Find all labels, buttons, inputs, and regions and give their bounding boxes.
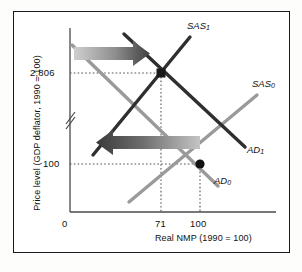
y-tick-100: 100 [43, 158, 59, 169]
curve-label-ad0: AD0 [214, 175, 231, 186]
curve-label-sas1-sub: 1 [206, 24, 210, 31]
curve-label-ad1-base: AD [247, 144, 260, 155]
x-tick-100: 100 [190, 218, 206, 229]
curve-label-sas1: SAS1 [187, 20, 210, 31]
chart-canvas [0, 0, 302, 272]
curve-label-ad0-sub: 0 [227, 179, 231, 186]
figure-container: Price level (GDP deflator, 1990 = 100) 2… [0, 0, 302, 272]
x-axis-title: Real NMP (1990 = 100) [155, 233, 252, 243]
curve-label-sas0-sub: 0 [271, 82, 275, 89]
curve-label-ad1: AD1 [247, 144, 264, 155]
y-tick-2806: 2,806 [30, 67, 55, 78]
ad-shift-arrow [74, 41, 150, 66]
curve-label-ad0-base: AD [214, 175, 227, 186]
equilibrium-marker-initial [195, 159, 204, 168]
curve-label-sas1-base: SAS [187, 20, 206, 31]
y-axis-title-wrap: Price level (GDP deflator, 1990 = 100) [14, 20, 36, 210]
curve-label-ad1-sub: 1 [260, 148, 264, 155]
curve-label-sas0: SAS0 [252, 78, 275, 89]
x-tick-0: 0 [62, 218, 67, 229]
curve-label-sas0-base: SAS [252, 78, 271, 89]
equilibrium-marker-new [157, 69, 166, 78]
x-tick-71: 71 [155, 218, 166, 229]
